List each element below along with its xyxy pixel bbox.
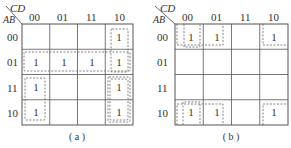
karnaugh-map-b: CD AB 00 01 11 10 00 01 11 10 1 1 1 1 1 … — [145, 0, 290, 148]
row-label: 00 — [157, 32, 168, 43]
cell: 1 — [212, 107, 222, 118]
row-label: 11 — [7, 83, 18, 94]
col-label: 01 — [211, 12, 222, 23]
cell: 1 — [59, 57, 69, 68]
caption: ( b ) — [211, 131, 251, 142]
cell: 1 — [31, 107, 41, 118]
col-var-label: CD — [10, 3, 25, 14]
col-label: 01 — [57, 12, 68, 23]
col-label: 11 — [240, 12, 251, 23]
row-label: 10 — [7, 108, 18, 119]
col-label: 11 — [86, 12, 97, 23]
col-label: 10 — [114, 12, 125, 23]
col-label: 10 — [268, 12, 279, 23]
cell: 1 — [269, 32, 279, 43]
row-var-label: AB — [3, 15, 15, 25]
col-var-label: CD — [160, 3, 175, 14]
cell: 1 — [186, 32, 196, 43]
karnaugh-map-a: CD AB 00 01 11 10 00 01 11 10 1 1 1 1 1 … — [0, 0, 145, 148]
col-label: 00 — [29, 12, 40, 23]
row-label: 01 — [157, 57, 168, 68]
cell: 1 — [31, 82, 41, 93]
cell: 1 — [114, 107, 124, 118]
cell: 1 — [186, 107, 196, 118]
cell: 1 — [87, 57, 97, 68]
cell: 1 — [269, 107, 279, 118]
row-label: 01 — [7, 57, 18, 68]
row-label: 00 — [7, 32, 18, 43]
row-var-label: AB — [153, 15, 165, 25]
cell: 1 — [114, 57, 124, 68]
col-label: 00 — [182, 12, 193, 23]
cell: 1 — [114, 32, 124, 43]
cell: 1 — [31, 57, 41, 68]
row-label: 11 — [157, 83, 168, 94]
row-label: 10 — [157, 108, 168, 119]
cell: 1 — [114, 82, 124, 93]
caption: ( a ) — [57, 131, 97, 142]
cell: 1 — [212, 32, 222, 43]
